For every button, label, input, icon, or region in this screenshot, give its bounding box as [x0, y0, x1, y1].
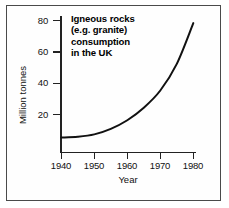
y-tick-40 — [53, 83, 60, 84]
x-axis-line — [60, 152, 196, 154]
x-tick-1960 — [127, 152, 128, 159]
chart-title-line-4: in the UK — [71, 47, 167, 58]
figure-chart-igneous-rock-consumption: 80 60 40 20 1940 1950 1960 1970 1980 Mil… — [0, 0, 229, 208]
chart-title-line-1: Igneous rocks — [71, 13, 167, 24]
x-axis-title: Year — [60, 175, 196, 185]
y-tick-20 — [53, 114, 60, 115]
y-tick-80 — [53, 20, 60, 21]
y-tick-label-60: 60 — [8, 47, 48, 57]
y-axis-line — [60, 16, 62, 153]
chart-title-line-3: consumption — [71, 36, 167, 47]
x-tick-1950 — [94, 152, 95, 159]
y-tick-label-80: 80 — [8, 16, 48, 26]
y-axis-title: Million tonnes — [12, 60, 32, 130]
x-tick-1970 — [160, 152, 161, 159]
x-tick-1980 — [193, 152, 194, 159]
x-tick-1940 — [61, 152, 62, 159]
chart-title: Igneous rocks (e.g. granite) consumption… — [71, 13, 167, 59]
y-tick-60 — [53, 51, 60, 52]
chart-title-line-2: (e.g. granite) — [71, 24, 167, 35]
x-tick-label-1980: 1980 — [173, 161, 213, 171]
y-axis-title-text: Million tonnes — [17, 66, 28, 124]
